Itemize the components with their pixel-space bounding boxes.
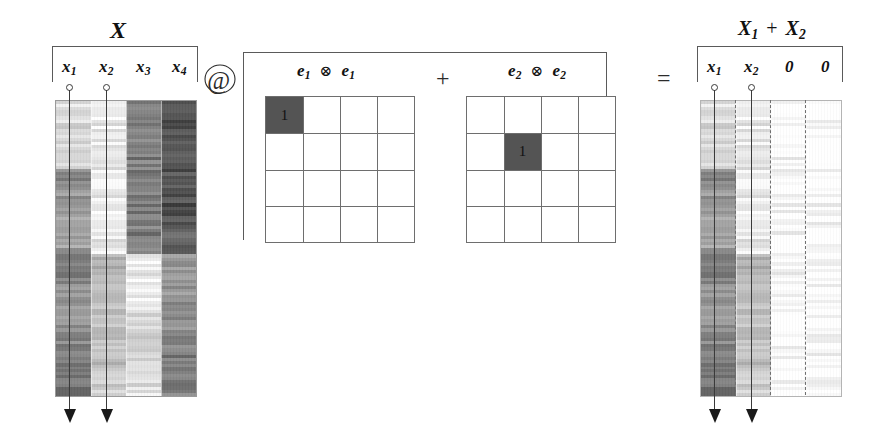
- right-arrow-1: [709, 409, 721, 423]
- tensor-filled-cell: 1: [266, 97, 303, 133]
- right-dashed-sep-1: [735, 100, 736, 395]
- heat-column: [126, 101, 161, 396]
- right-data-matrix: [700, 100, 842, 397]
- right-dashed-sep-2: [770, 100, 771, 395]
- left-col-header-2: x2: [99, 58, 113, 75]
- heat-column-texture: [736, 101, 771, 396]
- heat-column: [806, 101, 841, 396]
- equals-operator: =: [657, 66, 671, 90]
- right-arrow-2: [746, 409, 758, 423]
- right-matrix-title: X1 + X2: [738, 18, 806, 38]
- left-data-matrix: [55, 100, 197, 397]
- heat-column-texture: [771, 101, 806, 396]
- left-arrow-1: [64, 409, 76, 423]
- tensor-term-1-label: e1 ⊗ e1: [297, 62, 355, 79]
- heat-column-divider: [126, 101, 127, 396]
- tensor-matrix-1: 1: [265, 96, 415, 243]
- heat-column: [736, 101, 771, 396]
- tensor-cell-value: 1: [519, 143, 527, 160]
- heat-column: [161, 101, 196, 396]
- heat-column-texture: [806, 101, 841, 396]
- heat-column-divider: [771, 101, 772, 396]
- left-pointer-line-2: [106, 90, 107, 420]
- tensor-matrix-2: 1: [466, 96, 616, 243]
- left-arrow-2: [101, 409, 113, 423]
- heat-column: [701, 101, 736, 396]
- heat-column-divider: [161, 101, 162, 396]
- left-col-header-3: x3: [136, 58, 150, 75]
- heat-column: [56, 101, 91, 396]
- tensor-filled-cell: 1: [504, 133, 541, 169]
- heat-column-divider: [806, 101, 807, 396]
- figure-canvas: X x1 x2 x3 x4 @ e1 ⊗ e1 1: [0, 0, 877, 442]
- tensor-grid-line: [467, 133, 615, 134]
- heat-column-texture: [161, 101, 196, 396]
- left-pointer-line-1: [69, 90, 70, 420]
- heat-column-divider: [736, 101, 737, 396]
- heat-column: [771, 101, 806, 396]
- tensor-cell-value: 1: [281, 107, 289, 124]
- matmul-operator-ring: [203, 62, 237, 96]
- right-col-header-3: 0: [785, 58, 794, 75]
- left-col-header-4: x4: [172, 58, 186, 75]
- right-col-header-1: x1: [707, 58, 721, 75]
- right-col-header-2: x2: [744, 58, 758, 75]
- heat-column-texture: [56, 101, 91, 396]
- right-pointer-line-1: [714, 90, 715, 420]
- right-pointer-line-2: [751, 90, 752, 420]
- tensor-grid-line: [266, 170, 414, 171]
- tensor-term-2-label: e2 ⊗ e2: [508, 62, 566, 79]
- tensor-grid-line: [266, 206, 414, 207]
- tensor-grid-line: [266, 133, 414, 134]
- plus-operator: +: [436, 66, 450, 90]
- heat-column-divider: [91, 101, 92, 396]
- right-col-header-4: 0: [821, 58, 830, 75]
- heat-column-texture: [701, 101, 736, 396]
- tensor-grid-line: [467, 206, 615, 207]
- heat-column: [91, 101, 126, 396]
- tensor-grid-line: [467, 170, 615, 171]
- left-col-header-1: x1: [62, 58, 76, 75]
- right-dashed-sep-3: [805, 100, 806, 395]
- heat-column-texture: [91, 101, 126, 396]
- left-matrix-title: X: [110, 18, 126, 42]
- heat-column-texture: [126, 101, 161, 396]
